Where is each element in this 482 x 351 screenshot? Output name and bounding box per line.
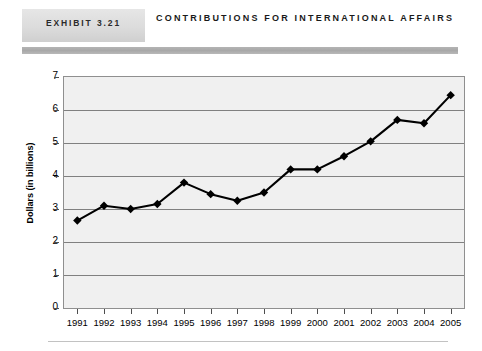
y-tick-label-6: 6 bbox=[36, 103, 58, 114]
x-tick-label-1997: 1997 bbox=[227, 317, 248, 328]
x-tick-label-2004: 2004 bbox=[413, 317, 434, 328]
header-divider bbox=[22, 47, 458, 54]
x-axis-tick-marks bbox=[63, 309, 465, 315]
y-tick-label-7: 7 bbox=[36, 70, 58, 81]
y-tick-mark-1 bbox=[54, 275, 59, 276]
x-tick-mark-1999 bbox=[291, 309, 292, 314]
x-tick-label-2001: 2001 bbox=[333, 317, 354, 328]
y-tick-label-5: 5 bbox=[36, 136, 58, 147]
x-tick-mark-2002 bbox=[371, 309, 372, 314]
y-tick-mark-3 bbox=[54, 209, 59, 210]
data-point-1996 bbox=[206, 190, 214, 198]
x-tick-mark-1994 bbox=[157, 309, 158, 314]
plot-area bbox=[63, 76, 465, 309]
exhibit-title: CONTRIBUTIONS FOR INTERNATIONAL AFFAIRS bbox=[156, 11, 476, 26]
x-tick-label-1998: 1998 bbox=[253, 317, 274, 328]
data-point-1993 bbox=[126, 205, 134, 213]
x-tick-mark-1992 bbox=[104, 309, 105, 314]
x-tick-label-1992: 1992 bbox=[93, 317, 114, 328]
data-point-1992 bbox=[100, 202, 108, 210]
exhibit-number-label: EXHIBIT 3.21 bbox=[22, 18, 145, 28]
data-point-2001 bbox=[340, 152, 348, 160]
x-tick-mark-1998 bbox=[264, 309, 265, 314]
x-tick-mark-1995 bbox=[184, 309, 185, 314]
x-tick-mark-1996 bbox=[211, 309, 212, 314]
x-tick-label-2005: 2005 bbox=[440, 317, 461, 328]
x-tick-label-1999: 1999 bbox=[280, 317, 301, 328]
y-tick-label-0: 0 bbox=[36, 301, 58, 312]
y-tick-label-4: 4 bbox=[36, 169, 58, 180]
x-tick-mark-1991 bbox=[77, 309, 78, 314]
y-tick-label-1: 1 bbox=[36, 268, 58, 279]
x-tick-mark-2005 bbox=[451, 309, 452, 314]
series-line bbox=[77, 95, 450, 220]
series-contributions bbox=[64, 77, 464, 308]
x-tick-label-1996: 1996 bbox=[200, 317, 221, 328]
x-tick-label-2002: 2002 bbox=[360, 317, 381, 328]
x-tick-label-2000: 2000 bbox=[307, 317, 328, 328]
x-tick-mark-2003 bbox=[397, 309, 398, 314]
x-tick-label-1994: 1994 bbox=[147, 317, 168, 328]
x-tick-mark-2004 bbox=[424, 309, 425, 314]
data-point-1997 bbox=[233, 197, 241, 205]
x-axis-tick-labels: 1991199219931994199519961997199819992000… bbox=[63, 317, 465, 331]
y-axis-tick-labels: 01234567 bbox=[30, 76, 58, 309]
x-tick-label-1995: 1995 bbox=[173, 317, 194, 328]
y-tick-mark-6 bbox=[54, 110, 59, 111]
exhibit-header: EXHIBIT 3.21 CONTRIBUTIONS FOR INTERNATI… bbox=[0, 0, 482, 56]
exhibit-page: EXHIBIT 3.21 CONTRIBUTIONS FOR INTERNATI… bbox=[0, 0, 482, 351]
exhibit-label-box: EXHIBIT 3.21 bbox=[22, 9, 145, 42]
series-markers bbox=[73, 91, 455, 225]
x-tick-mark-1993 bbox=[131, 309, 132, 314]
x-tick-label-1991: 1991 bbox=[67, 317, 88, 328]
x-tick-label-2003: 2003 bbox=[387, 317, 408, 328]
y-tick-mark-4 bbox=[54, 176, 59, 177]
y-tick-label-2: 2 bbox=[36, 235, 58, 246]
x-tick-mark-1997 bbox=[237, 309, 238, 314]
y-tick-mark-5 bbox=[54, 143, 59, 144]
data-point-1991 bbox=[73, 216, 81, 224]
x-tick-mark-2001 bbox=[344, 309, 345, 314]
x-tick-mark-2000 bbox=[317, 309, 318, 314]
line-chart: Dollars (in billions) 01234567 199119921… bbox=[0, 60, 482, 335]
x-tick-label-1993: 1993 bbox=[120, 317, 141, 328]
data-point-2000 bbox=[313, 165, 321, 173]
y-tick-mark-0 bbox=[54, 308, 59, 309]
y-tick-mark-7 bbox=[54, 77, 59, 78]
footer-divider bbox=[48, 341, 448, 342]
y-tick-label-3: 3 bbox=[36, 202, 58, 213]
y-tick-mark-2 bbox=[54, 242, 59, 243]
